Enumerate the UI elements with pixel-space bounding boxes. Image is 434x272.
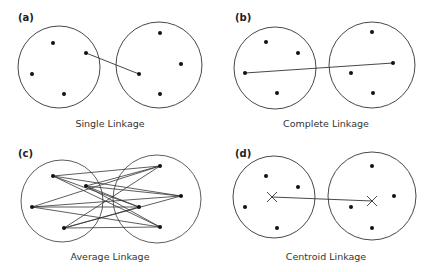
panel-c-label: (c) [18, 148, 33, 159]
panel-d-graphic [233, 152, 416, 240]
cluster-left-circle [234, 27, 316, 109]
panel-a-label: (a) [18, 12, 34, 23]
single-link-line [86, 53, 139, 74]
panel-b-points [243, 30, 395, 95]
panel-a-points [30, 31, 183, 96]
panel-d-caption: Centroid Linkage [256, 251, 396, 262]
panel-b-caption: Complete Linkage [256, 118, 396, 129]
panel-c-graphic [21, 155, 201, 243]
linkage-diagram [0, 0, 434, 272]
panel-d-label: (d) [235, 148, 251, 159]
panel-b-graphic [234, 22, 415, 109]
panel-d-points [243, 164, 396, 230]
cluster-right-circle [329, 22, 415, 108]
panel-b-label: (b) [235, 12, 251, 23]
panel-c-caption: Average Linkage [40, 251, 180, 262]
cluster-left-circle [18, 26, 100, 108]
centroid-link-line [272, 197, 372, 201]
panel-a-graphic [18, 22, 202, 108]
panel-a-caption: Single Linkage [40, 118, 180, 129]
complete-link-line [245, 63, 393, 73]
